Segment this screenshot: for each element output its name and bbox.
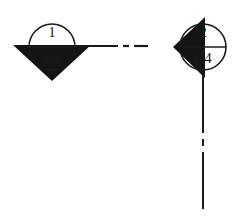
section-marker-left-group[interactable]: 1 I-4 bbox=[13, 24, 91, 81]
section-marker-right-group[interactable]: 2 I-4 bbox=[173, 17, 226, 78]
marker-right-bottom-label: I-4 bbox=[194, 50, 212, 66]
marker-left-top-label: 1 bbox=[48, 24, 56, 40]
section-marker-diagram: 1 I-4 2 I-4 bbox=[0, 0, 244, 219]
marker-left-bottom-label: I-4 bbox=[43, 50, 61, 66]
marker-right-top-label: 2 bbox=[199, 24, 207, 40]
diagram-canvas: 1 I-4 2 I-4 bbox=[0, 0, 244, 219]
